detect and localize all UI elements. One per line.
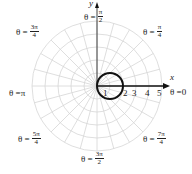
angle-label-5pi-4: θ = 5π4 bbox=[18, 131, 41, 146]
angle-label-7pi-4: θ = 7π4 bbox=[143, 131, 166, 146]
y-axis-label: y bbox=[89, 0, 93, 8]
angle-label-pi: θ = π bbox=[9, 88, 25, 98]
radial-tick-2: 2 bbox=[123, 88, 128, 98]
polar-graph: x y 1 2 3 4 5 θ = 0 θ = π4 θ = π2 θ = 3π… bbox=[0, 0, 192, 174]
radial-tick-1: 1 bbox=[103, 88, 108, 98]
radial-tick-4: 4 bbox=[145, 88, 150, 98]
angle-label-3pi-2: θ = 3π2 bbox=[81, 151, 104, 166]
radial-tick-3: 3 bbox=[132, 88, 137, 98]
x-axis-label: x bbox=[170, 72, 174, 82]
radial-tick-5: 5 bbox=[157, 88, 162, 98]
angle-label-pi-4: θ = π4 bbox=[143, 24, 162, 39]
angle-label-3pi-4: θ = 3π4 bbox=[16, 24, 39, 39]
angle-label-pi-2: θ = π2 bbox=[84, 9, 103, 24]
angle-label-0: θ = 0 bbox=[170, 87, 186, 97]
x-axis-arrow-icon bbox=[163, 83, 170, 89]
